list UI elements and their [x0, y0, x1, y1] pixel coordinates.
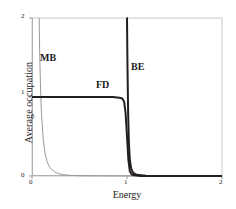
curve-label-be: BE	[131, 61, 144, 72]
y-tick-label-0: 0	[21, 171, 25, 179]
y-axis-label: Average occupation	[23, 23, 34, 183]
x-tick-label-2: 2	[219, 178, 223, 186]
x-axis-label: Energy	[87, 189, 167, 200]
x-tick-label-1: 1	[124, 178, 128, 186]
y-tick-label-2: 2	[21, 12, 25, 20]
y-tick-label-1: 1	[21, 88, 25, 96]
chart-figure: Average occupation Energy 0 1 2 0 1 2 MB…	[0, 0, 236, 209]
distribution-plot	[0, 0, 236, 209]
curve-label-fd: FD	[96, 79, 109, 90]
curve-label-mb: MB	[40, 52, 56, 63]
x-tick-label-0: 0	[29, 178, 33, 186]
